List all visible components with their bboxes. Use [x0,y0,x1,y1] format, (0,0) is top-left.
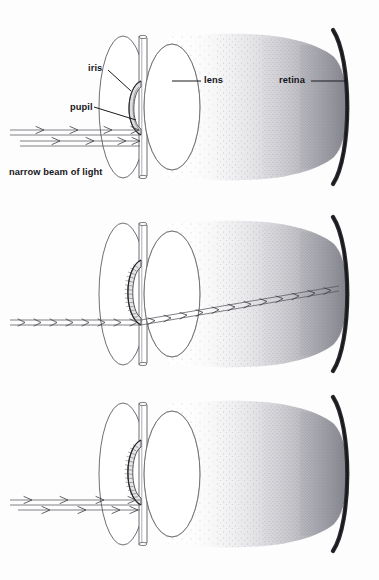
eye-diagram-figure: iris pupil lens retina narrow beam of li… [0,0,379,580]
eye-assembly-bottom [99,397,350,551]
label-beam-group: narrow beam of light [9,167,102,177]
panel-bottom [10,397,350,551]
eye-assembly-top [99,30,350,184]
label-lens: lens [204,75,223,85]
panel-middle [10,217,350,371]
label-narrow-beam-of-light: narrow beam of light [9,167,102,177]
label-pupil: pupil [70,102,93,112]
label-retina: retina [279,75,306,85]
panel-top: iris pupil lens retina narrow beam of li… [9,30,350,184]
label-iris: iris [88,63,102,73]
eye-assembly-middle [99,217,350,371]
diagram-canvas: iris pupil lens retina narrow beam of li… [0,0,379,580]
